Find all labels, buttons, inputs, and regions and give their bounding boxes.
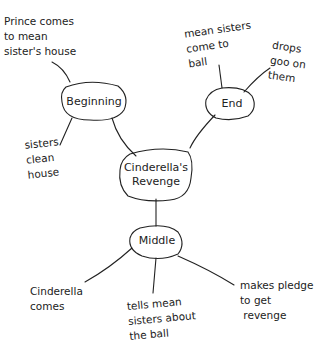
node-center-label-line1: Cinderella's [120, 161, 192, 175]
connector-end-mean-sisters [219, 65, 222, 88]
leaf-sisters-clean-house: sisters clean house [24, 134, 63, 182]
leaf-prince-comes: Prince comes to mean sister's house [4, 14, 76, 59]
node-center-label-line2: Revenge [120, 175, 192, 189]
node-center[interactable]: Cinderella's Revenge [120, 161, 192, 189]
connector-beginning-center [112, 118, 136, 156]
connector-middle-tells-mean [153, 258, 156, 293]
connector-beginning-sisters-clean [60, 118, 72, 145]
node-beginning-label: Beginning [66, 95, 121, 108]
leaf-tells-mean-sisters: tells mean sisters about the ball [126, 293, 198, 344]
node-beginning[interactable]: Beginning [62, 95, 126, 109]
connector-middle-cinderella-comes [85, 248, 132, 282]
leaf-makes-pledge: makes pledge to get revenge [240, 278, 313, 323]
node-end[interactable]: End [206, 97, 258, 111]
connector-beginning-prince [52, 62, 70, 82]
node-middle-label: Middle [139, 234, 175, 247]
node-end-label: End [222, 97, 243, 110]
leaf-mean-sisters-come: mean sisters come to ball [183, 18, 256, 72]
leaf-cinderella-comes: Cinderella comes [30, 284, 83, 314]
node-middle[interactable]: Middle [130, 234, 184, 248]
connector-end-center [190, 115, 215, 148]
connector-middle-makes-pledge [178, 256, 234, 285]
leaf-drops-goo: drops goo on them [267, 38, 309, 88]
connector-end-drops-goo [244, 68, 270, 92]
